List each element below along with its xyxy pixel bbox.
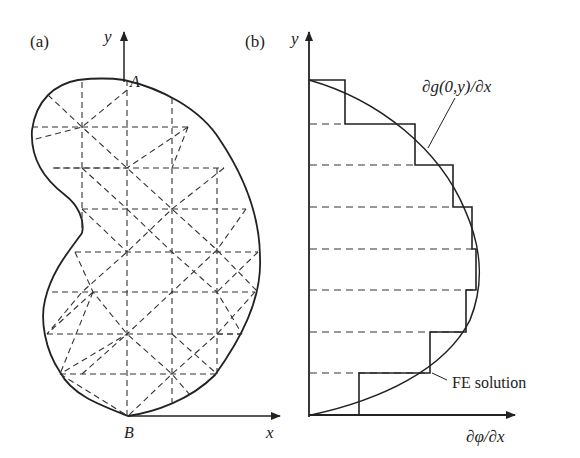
panel-a-label: (a)	[30, 32, 49, 51]
element-divisions	[310, 124, 476, 373]
x-axis-label-b: ∂φ/∂x	[466, 427, 505, 446]
panel-a: (a) y A x B	[30, 27, 280, 442]
panel-b: (b) y ∂φ/∂x ∂g(0,y)/∂x FE solution	[245, 29, 526, 446]
y-axis-label-a: y	[102, 27, 112, 46]
fe-solution-label: FE solution	[452, 374, 526, 391]
figure: (a) y A x B	[0, 0, 580, 458]
y-axis-label-b: y	[289, 29, 299, 48]
point-b-label: B	[124, 424, 134, 441]
curve-label: ∂g(0,y)/∂x	[422, 77, 492, 96]
fe-leader-line	[432, 373, 447, 380]
x-axis-label-a: x	[265, 423, 274, 442]
panel-b-label: (b)	[245, 32, 265, 51]
domain-boundary	[32, 79, 260, 417]
curve-leader-line	[428, 98, 455, 148]
fe-solution-steps	[309, 80, 476, 415]
fe-mesh	[32, 80, 258, 416]
exact-derivative-curve	[309, 80, 480, 415]
